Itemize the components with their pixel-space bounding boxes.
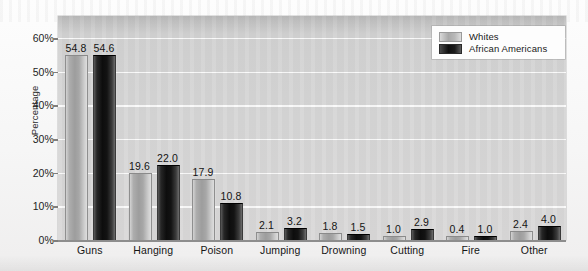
bar [474, 236, 497, 240]
y-tick-label: 0% [8, 234, 54, 246]
bar [284, 228, 307, 240]
bar [93, 55, 116, 240]
y-tick-label: 20% [8, 167, 54, 179]
bar [446, 236, 469, 240]
bar-value-label: 22.0 [148, 152, 188, 164]
bar-group: 1.02.9 [376, 16, 440, 240]
bar-value-label: 54.6 [84, 42, 124, 54]
x-axis-label-other: Other [494, 244, 574, 256]
y-tick-label: 10% [8, 200, 54, 212]
bar-chart: Percentage 0%10%20%30%40%50%60% 54.854.6… [0, 0, 588, 271]
y-tick-label: 60% [8, 32, 54, 44]
bar-group: 19.622.0 [122, 16, 186, 240]
legend-label-african-americans: African Americans [469, 43, 547, 54]
legend-label-whites: Whites [469, 31, 499, 42]
bar-value-label: 10.8 [211, 190, 251, 202]
gridline-0 [58, 240, 566, 242]
bar [220, 203, 243, 240]
y-tick-mark [53, 240, 58, 242]
bar [383, 236, 406, 240]
y-axis-tick-labels: 0%10%20%30%40%50%60% [4, 0, 54, 271]
bar [319, 233, 342, 240]
bar-value-label: 4.0 [529, 213, 569, 225]
bar [157, 165, 180, 240]
y-tick-label: 50% [8, 66, 54, 78]
legend: Whites African Americans [432, 26, 565, 59]
y-tick-label: 40% [8, 99, 54, 111]
bar [347, 234, 370, 240]
bar-group: 54.854.6 [58, 16, 122, 240]
bar [411, 229, 434, 240]
legend-swatch-african-americans [439, 44, 462, 54]
page-background: Percentage 0%10%20%30%40%50%60% 54.854.6… [0, 0, 588, 271]
bar [510, 231, 533, 240]
y-tick-label: 30% [8, 133, 54, 145]
bar-value-label: 17.9 [183, 166, 223, 178]
bar-value-label: 3.2 [275, 215, 315, 227]
bar [65, 55, 88, 240]
bar [538, 226, 561, 240]
x-axis-category-labels: GunsHangingPoisonJumpingDrowningCuttingF… [58, 244, 566, 264]
bar-value-label: 1.5 [338, 221, 378, 233]
legend-swatch-whites [439, 32, 462, 42]
bar [192, 179, 215, 240]
bar-group: 1.81.5 [312, 16, 376, 240]
legend-item-whites: Whites [439, 31, 559, 42]
bar-value-label: 2.9 [402, 216, 442, 228]
bar [256, 232, 279, 240]
legend-item-african-americans: African Americans [439, 43, 559, 54]
bar-value-label: 1.0 [465, 223, 505, 235]
bar-group: 2.13.2 [249, 16, 313, 240]
bar-group: 17.910.8 [185, 16, 249, 240]
bar [129, 173, 152, 240]
